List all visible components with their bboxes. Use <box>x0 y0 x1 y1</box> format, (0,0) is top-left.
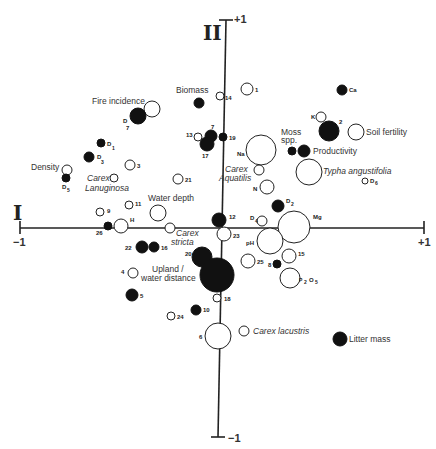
label-d7-sub: 7 <box>126 125 130 131</box>
point-2 <box>319 121 339 141</box>
point-soil-fertility <box>348 124 364 140</box>
label-carex-lanuginosa-1: Carex <box>87 173 110 183</box>
label-8: 8 <box>268 262 272 268</box>
label-d4-sub: 4 <box>255 218 258 224</box>
label-3: 3 <box>137 163 141 169</box>
point-4 <box>128 268 138 278</box>
point-fire-incidence <box>144 101 160 117</box>
point-n <box>260 180 274 194</box>
label-biomass: Biomass <box>176 85 209 95</box>
label-soil-fertility: Soil fertility <box>366 127 408 137</box>
label-mg: Mg <box>313 214 322 220</box>
point-typha <box>296 159 322 185</box>
label-water-depth: Water depth <box>148 193 194 203</box>
label-d3-sub: 3 <box>101 159 104 165</box>
point-moss-spp <box>288 147 296 155</box>
point-17 <box>200 137 214 151</box>
point-carex-stricta <box>165 223 175 233</box>
point-23 <box>217 227 231 241</box>
point-21 <box>173 174 183 184</box>
point-19 <box>219 133 227 141</box>
label-16: 16 <box>161 245 168 251</box>
point-productivity <box>298 145 310 157</box>
label-ph: pH <box>246 240 254 246</box>
axis-ii-min-label: −1 <box>228 432 241 444</box>
label-carex-lanuginosa-2: Lanuginosa <box>85 183 129 193</box>
label-k: K <box>311 114 316 120</box>
point-8 <box>273 260 281 268</box>
point-12 <box>212 213 226 227</box>
axis-i-label: I <box>13 201 22 225</box>
label-carex-aquatilis-2: Aquatilis <box>218 173 252 183</box>
point-5 <box>126 289 138 301</box>
label-n: N <box>253 186 257 192</box>
point-upland-water-distance <box>200 258 234 292</box>
axis-ii-label: II <box>203 21 222 45</box>
point-6 <box>205 323 231 349</box>
label-11: 11 <box>135 201 142 207</box>
point-h <box>114 219 128 233</box>
point-24 <box>167 312 175 320</box>
label-d5-sub: 5 <box>67 187 70 193</box>
point-22 <box>136 241 148 253</box>
ordination-diagram: II +1 −1 I −1 +1 <box>0 0 436 449</box>
label-carex-lacustris: Carex lacustris <box>253 326 310 336</box>
point-carex-aquatilis <box>254 165 264 175</box>
label-4: 4 <box>121 269 125 275</box>
label-22: 22 <box>125 245 132 251</box>
point-d5 <box>62 174 70 182</box>
data-points <box>62 83 368 349</box>
axis-i-min-label: −1 <box>13 236 26 248</box>
label-17: 17 <box>202 153 209 159</box>
label-na: Na <box>237 151 245 157</box>
point-16 <box>149 242 159 252</box>
point-d4 <box>257 216 267 226</box>
point-14 <box>216 92 224 100</box>
point-d2 <box>272 200 284 212</box>
label-15: 15 <box>298 251 305 257</box>
point-10 <box>191 305 201 315</box>
label-typha: Typha angustifolia <box>323 166 392 176</box>
point-carex-lanuginosa <box>110 174 118 182</box>
point-d1 <box>97 139 105 147</box>
label-h: H <box>130 217 134 223</box>
label-19: 19 <box>229 135 236 141</box>
point-d6 <box>362 178 368 184</box>
label-12: 12 <box>229 214 236 220</box>
label-14: 14 <box>225 95 232 101</box>
label-10: 10 <box>203 307 210 313</box>
label-density: Density <box>31 162 60 172</box>
axis-i-max-label: +1 <box>418 236 431 248</box>
point-15 <box>282 249 296 263</box>
label-d7: D <box>123 118 128 124</box>
label-ca: Ca <box>349 87 357 93</box>
label-litter-mass: Litter mass <box>349 334 391 344</box>
point-density <box>62 165 72 175</box>
label-p2o5-p: P <box>299 277 303 283</box>
label-6: 6 <box>199 334 203 340</box>
label-13: 13 <box>186 132 193 138</box>
label-24: 24 <box>177 314 184 320</box>
label-18: 18 <box>224 296 231 302</box>
label-upland-2: water distance <box>140 273 196 283</box>
point-11 <box>125 201 133 209</box>
point-d3 <box>84 152 94 162</box>
point-water-depth <box>150 205 166 221</box>
label-p2o5-2: 2 <box>304 279 307 285</box>
axis-ii-max-label: +1 <box>234 13 247 25</box>
label-p2o5-o: O <box>309 277 314 283</box>
ordination-plot: II +1 −1 I −1 +1 <box>0 0 436 449</box>
label-d6-sub: 6 <box>375 180 378 186</box>
point-d7 <box>130 108 146 124</box>
label-25: 25 <box>257 259 264 265</box>
label-fire-incidence: Fire incidence <box>92 96 145 106</box>
label-p2o5-5: 5 <box>315 279 318 285</box>
point-9 <box>96 208 104 216</box>
point-ca <box>337 85 347 95</box>
point-biomass <box>194 98 204 108</box>
label-moss-2: spp. <box>281 135 297 145</box>
point-26 <box>104 222 112 230</box>
point-na <box>246 135 276 165</box>
point-carex-lacustris <box>239 326 249 336</box>
label-d2-sub: 2 <box>291 201 294 207</box>
